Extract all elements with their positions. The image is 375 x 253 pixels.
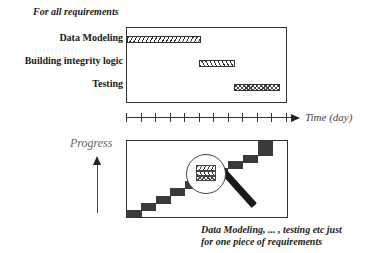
- bar-building-integrity-logic: [199, 60, 235, 67]
- bar-testing: [234, 84, 280, 91]
- mini-bar-testing: [196, 176, 216, 181]
- progress-step: [141, 203, 156, 211]
- magnifier-note-line1: Data Modeling, ... , testing etc just: [201, 224, 342, 236]
- task-label-data-modeling: Data Modeling: [3, 32, 123, 43]
- gantt-chart-box: [126, 27, 287, 103]
- tick: [286, 113, 287, 122]
- progress-step: [258, 141, 273, 149]
- progress-step: [258, 148, 273, 156]
- tick: [242, 113, 243, 122]
- progress-step: [170, 188, 185, 196]
- progress-step: [228, 161, 243, 169]
- progress-step: [156, 196, 171, 204]
- progress-axis-label: Progress: [70, 136, 112, 151]
- magnifier-note-line2: for one piece of requirements: [201, 236, 322, 248]
- gantt-header: For all requirements: [33, 6, 119, 17]
- tick: [213, 113, 214, 122]
- time-axis-line: [126, 117, 292, 118]
- tick: [184, 113, 185, 122]
- tick: [199, 113, 200, 122]
- tick: [170, 113, 171, 122]
- time-axis-label: Time (day): [305, 111, 352, 123]
- task-label-building-integrity-logic: Building integrity logic: [3, 55, 123, 66]
- progress-step: [243, 155, 258, 163]
- tick: [126, 113, 127, 122]
- progress-chart-box: [126, 140, 288, 218]
- progress-step: [127, 210, 142, 218]
- tick: [155, 113, 156, 122]
- bar-data-modeling: [127, 36, 201, 43]
- tick: [257, 113, 258, 122]
- progress-axis-line: [97, 164, 98, 213]
- magnifier-lens-icon: [186, 154, 226, 194]
- tick: [271, 113, 272, 122]
- time-axis-arrow-icon: [291, 114, 300, 122]
- task-label-testing: Testing: [3, 78, 123, 89]
- tick: [141, 113, 142, 122]
- tick: [228, 113, 229, 122]
